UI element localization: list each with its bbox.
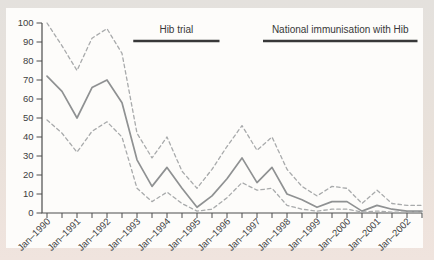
y-tick-label: 30: [23, 150, 34, 161]
y-tick-label: 100: [18, 17, 34, 28]
y-tick-label: 40: [23, 131, 34, 142]
annotation-label: Hib trial: [159, 24, 193, 35]
y-tick-label: 80: [23, 55, 34, 66]
y-tick-label: 10: [23, 188, 34, 199]
figure-frame: 0102030405060708090100Jan–1990Jan–1991Ja…: [0, 0, 434, 260]
plot-panel: [6, 8, 423, 248]
chart-svg: 0102030405060708090100Jan–1990Jan–1991Ja…: [0, 0, 434, 260]
hib-incidence-chart: 0102030405060708090100Jan–1990Jan–1991Ja…: [0, 0, 434, 260]
y-tick-label: 50: [23, 112, 34, 123]
y-tick-label: 0: [28, 207, 33, 218]
y-tick-label: 90: [23, 36, 34, 47]
y-tick-label: 70: [23, 74, 34, 85]
y-tick-label: 20: [23, 169, 34, 180]
annotation-label: National immunisation with Hib: [272, 24, 409, 35]
y-tick-label: 60: [23, 93, 34, 104]
